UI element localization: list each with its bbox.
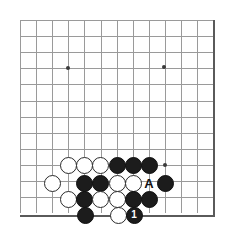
go-board-diagram: 1 A [0,0,225,227]
label-layer: A [0,0,225,227]
board-point-label: A [141,175,158,192]
